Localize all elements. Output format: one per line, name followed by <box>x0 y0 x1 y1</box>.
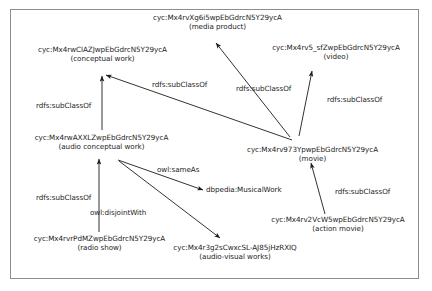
node-audio-visual-works-gloss: (audio-visual works) <box>159 252 311 261</box>
edge-label-movie-subclassof-conceptual-work: rdfs:subClassOf <box>152 80 207 89</box>
node-movie-uri: cyc:Mx4rv973YpwpEbGdrcN5Y29ycA <box>224 145 401 154</box>
edge-label-video-subclassof-movie: rdfs:subClassOf <box>327 95 382 104</box>
node-video-gloss: (video) <box>260 52 412 61</box>
node-musical-work-uri: dbpedia:MusicalWork <box>206 185 282 194</box>
node-musical-work[interactable]: dbpedia:MusicalWork <box>206 185 282 194</box>
node-movie-gloss: (movie) <box>224 154 401 163</box>
node-media-product[interactable]: cyc:Mx4rvXg6i5wpEbGdrcN5Y29ycA (media pr… <box>140 13 295 32</box>
node-movie[interactable]: cyc:Mx4rv973YpwpEbGdrcN5Y29ycA (movie) <box>224 145 401 164</box>
node-audio-visual-works-uri: cyc:Mx4r3g2sCwxcSL-AJ85jHzRXIQ <box>159 243 311 252</box>
edge-label-audio-conceptual-subclassof-conceptual-work: rdfs:subClassOf <box>36 101 91 110</box>
node-action-movie-gloss: (action movie) <box>257 224 419 233</box>
node-video-uri: cyc:Mx4rv5_sfZwpEbGdrcN5Y29ycA <box>260 43 412 52</box>
edge-action-movie-subclassof-movie <box>311 163 325 214</box>
node-conceptual-work[interactable]: cyc:Mx4rwClAZJwpEbGdrcN5Y29ycA (conceptu… <box>24 45 181 64</box>
edge-label-action-movie-subclassof-movie: rdfs:subClassOf <box>335 187 390 196</box>
node-action-movie-uri: cyc:Mx4rv2VcW5wpEbGdrcN5Y29ycA <box>257 215 419 224</box>
diagram-canvas: cyc:Mx4rvXg6i5wpEbGdrcN5Y29ycA (media pr… <box>0 0 432 291</box>
node-audio-conceptual-work[interactable]: cyc:Mx4rwAXXLZwpEbGdrcN5Y29ycA (audio co… <box>20 133 183 152</box>
node-action-movie[interactable]: cyc:Mx4rv2VcW5wpEbGdrcN5Y29ycA (action m… <box>257 215 419 234</box>
edge-label-movie-subclassof-media-product: rdfs:subClassOf <box>236 84 291 93</box>
node-conceptual-work-gloss: (conceptual work) <box>24 54 181 63</box>
node-media-product-uri: cyc:Mx4rvXg6i5wpEbGdrcN5Y29ycA <box>140 13 295 22</box>
edge-video-subclassof-movie <box>299 71 312 136</box>
node-conceptual-work-uri: cyc:Mx4rwClAZJwpEbGdrcN5Y29ycA <box>24 45 181 54</box>
node-radio-show-gloss: (radio show) <box>21 243 178 252</box>
edge-label-radio-show-subclassof-audio-conceptual: rdfs:subClassOf <box>36 193 91 202</box>
edge-label-audio-conceptual-disjointwith-audio-visual: owl:disjointWith <box>90 208 146 217</box>
node-audio-conceptual-work-uri: cyc:Mx4rwAXXLZwpEbGdrcN5Y29ycA <box>20 133 183 142</box>
node-radio-show-uri: cyc:Mx4rvrPdMZwpEbGdrcN5Y29ycA <box>21 234 178 243</box>
node-audio-conceptual-work-gloss: (audio conceptual work) <box>20 142 183 151</box>
node-audio-visual-works[interactable]: cyc:Mx4r3g2sCwxcSL-AJ85jHzRXIQ (audio-vi… <box>159 243 311 262</box>
node-video[interactable]: cyc:Mx4rv5_sfZwpEbGdrcN5Y29ycA (video) <box>260 43 412 62</box>
node-media-product-gloss: (media product) <box>140 22 295 31</box>
node-radio-show[interactable]: cyc:Mx4rvrPdMZwpEbGdrcN5Y29ycA (radio sh… <box>21 234 178 253</box>
edge-label-audio-conceptual-sameas-musical-work: owl:sameAs <box>157 165 199 174</box>
